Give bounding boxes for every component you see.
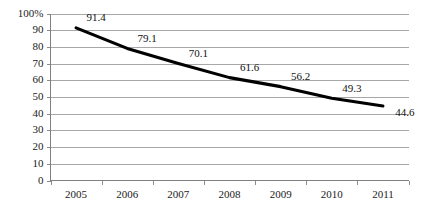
x-axis-tick-label: 2010 (321, 188, 344, 200)
y-axis-tick-label: 90 (33, 23, 45, 35)
x-axis-tick-label: 2011 (372, 188, 394, 200)
data-point-label: 91.4 (86, 11, 106, 23)
x-axis-tick-label: 2007 (167, 188, 190, 200)
data-point-label: 61.6 (240, 61, 260, 73)
y-axis-tick-label: 20 (33, 140, 45, 152)
y-axis-tick-label: 30 (33, 123, 45, 135)
x-axis-tick-label: 2008 (219, 188, 242, 200)
x-axis-tick-label: 2006 (116, 188, 139, 200)
y-axis-tick-label: 80 (33, 40, 45, 52)
y-axis-tick-label: 10 (33, 157, 45, 169)
y-axis-tick-label: 50 (33, 90, 45, 102)
data-point-label: 44.6 (395, 106, 415, 118)
y-axis-tick-label: 0 (38, 174, 44, 186)
data-point-label: 79.1 (138, 32, 157, 44)
y-axis-tick-label: 60 (33, 73, 45, 85)
y-axis-tick-label: 100% (18, 7, 44, 19)
x-axis-tick-label: 2009 (270, 188, 293, 200)
y-axis-tick-label: 70 (33, 57, 45, 69)
x-axis-tick-label: 2005 (65, 188, 88, 200)
line-chart: 0102030405060708090100% 2005200620072008… (0, 0, 423, 212)
chart-canvas: 0102030405060708090100% 2005200620072008… (0, 0, 423, 212)
data-point-label: 70.1 (189, 47, 208, 59)
y-axis-tick-label: 40 (33, 107, 45, 119)
data-point-label: 56.2 (291, 70, 310, 82)
data-point-label: 49.3 (342, 82, 362, 94)
